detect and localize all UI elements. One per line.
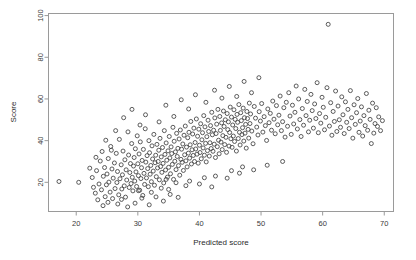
- x-tick-label: 30: [134, 219, 142, 228]
- y-tick-label: 60: [36, 95, 45, 103]
- x-tick-label: 70: [380, 219, 388, 228]
- y-tick-label: 80: [36, 53, 45, 61]
- y-axis-label: Score: [9, 101, 18, 122]
- y-tick-label: 20: [36, 178, 45, 186]
- scatter-plot-figure: 203040506070 20406080100 Predicted score…: [0, 0, 416, 260]
- x-tick-label: 40: [195, 219, 203, 228]
- x-tick-label: 50: [257, 219, 265, 228]
- x-axis-label: Predicted score: [193, 238, 249, 247]
- x-tick-label: 20: [72, 219, 80, 228]
- x-tick-label: 60: [318, 219, 326, 228]
- y-tick-label: 100: [36, 9, 45, 22]
- y-tick-label: 40: [36, 136, 45, 144]
